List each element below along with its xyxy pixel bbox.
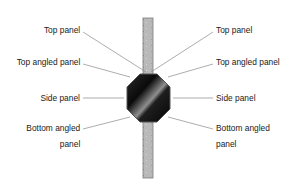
label-left-bottom-angled-line2: panel — [60, 138, 80, 149]
label-left-top-panel: Top panel — [44, 24, 80, 35]
octagon-nut — [127, 74, 170, 122]
label-right-bottom-angled-line2: panel — [216, 138, 236, 149]
diagram-canvas: Top panel Top angled panel Side panel Bo… — [0, 0, 293, 186]
label-left-top-angled-panel: Top angled panel — [16, 56, 80, 67]
label-left-bottom-angled-line1: Bottom angled — [26, 122, 80, 133]
label-left-side-panel: Side panel — [40, 92, 80, 103]
label-right-side-panel: Side panel — [216, 92, 256, 103]
label-right-top-angled-panel: Top angled panel — [216, 56, 280, 67]
label-right-top-panel: Top panel — [216, 24, 252, 35]
label-right-bottom-angled-line1: Bottom angled — [216, 122, 270, 133]
